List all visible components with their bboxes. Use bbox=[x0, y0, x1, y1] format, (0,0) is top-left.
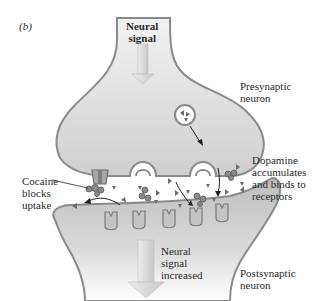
cocaine-molecule bbox=[86, 185, 104, 197]
neural-signal-label-top: Neural signal bbox=[126, 20, 158, 44]
dopamine-label: Dopamine accumulates and binds to recept… bbox=[252, 154, 306, 202]
postsynaptic-neuron-label: Postsynaptic neuron bbox=[240, 267, 296, 291]
cocaine-molecule bbox=[225, 170, 237, 181]
cocaine-molecule bbox=[139, 187, 151, 201]
synapse-diagram: (b) Neural signal Presynaptic neuron Dop… bbox=[0, 0, 328, 301]
vesicle bbox=[175, 105, 195, 125]
dopamine-transporter bbox=[92, 170, 108, 184]
panel-label: (b) bbox=[19, 20, 32, 32]
cocaine-label: Cocaine blocks uptake bbox=[22, 175, 58, 211]
presynaptic-neuron bbox=[56, 18, 263, 176]
neural-signal-label-bottom: Neural signal increased bbox=[161, 245, 203, 281]
presynaptic-neuron-label: Presynaptic neuron bbox=[240, 80, 291, 104]
